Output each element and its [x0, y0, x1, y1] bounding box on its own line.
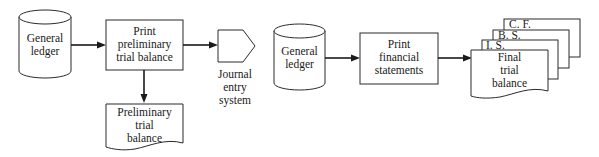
journal-entry-offpage-connector: [218, 30, 255, 62]
general-ledger-right-label: General ledger: [274, 45, 325, 71]
print-financial-label: Print financial statements: [360, 38, 438, 77]
arrow-preliminary-to-document: [141, 70, 148, 103]
print-preliminary-label: Print preliminary trial balance: [106, 25, 183, 64]
arrow-preliminary-to-journal: [183, 42, 218, 49]
final-trial-balance-label: Final trial balance: [471, 51, 548, 90]
arrow-ledger-to-financial: [325, 55, 360, 62]
arrow-financial-to-documents: [438, 55, 472, 62]
general-ledger-left-label: General ledger: [19, 32, 71, 58]
preliminary-trial-balance-label: Preliminary trial balance: [106, 106, 183, 145]
journal-entry-label: Journal entry system: [205, 68, 265, 107]
arrow-ledger-to-preliminary: [71, 42, 106, 49]
